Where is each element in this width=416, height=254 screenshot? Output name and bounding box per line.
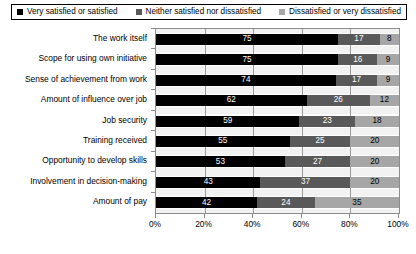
value-tick	[349, 214, 350, 218]
bar-segment[interactable]: 8	[380, 34, 399, 45]
category-label: The work itself	[93, 34, 147, 42]
stacked-bar[interactable]: 592318	[156, 116, 399, 127]
bar-value-label: 16	[353, 56, 362, 64]
bar-value-label: 20	[370, 137, 379, 145]
category-label: Opportunity to develop skills	[42, 156, 147, 164]
value-tick-label: 0%	[149, 220, 161, 228]
value-tick-label: 100%	[387, 220, 408, 228]
bar-value-label: 43	[204, 178, 213, 186]
bar-segment[interactable]: 42	[156, 197, 257, 208]
bar-segment[interactable]: 16	[338, 54, 377, 65]
bar-value-label: 75	[243, 56, 252, 64]
bar-value-label: 27	[313, 158, 322, 166]
stacked-bar[interactable]: 622612	[156, 95, 399, 106]
bar-segment[interactable]: 20	[350, 136, 399, 147]
bar-value-label: 55	[218, 137, 227, 145]
bar-segment[interactable]: 59	[156, 116, 299, 127]
bar-segment[interactable]: 17	[336, 75, 377, 86]
bar-segment[interactable]: 20	[350, 156, 399, 167]
bar-value-label: 74	[241, 76, 250, 84]
legend-item-very-satisfied-or-satisfied[interactable]: Very satisfied or satisfied	[17, 8, 118, 16]
stacked-bar[interactable]: 75178	[156, 34, 399, 45]
bar-segment[interactable]: 75	[156, 34, 338, 45]
bar-segment[interactable]: 37	[260, 177, 350, 188]
bar-value-label: 20	[370, 178, 379, 186]
stacked-bar[interactable]: 422435	[156, 197, 399, 208]
category-label: Amount of pay	[93, 197, 147, 205]
value-tick	[204, 214, 205, 218]
bar-segment[interactable]: 12	[370, 95, 399, 106]
category-axis-labels: The work itselfScope for using own initi…	[0, 28, 151, 214]
value-tick-label: 60%	[292, 220, 309, 228]
value-tick-label: 40%	[244, 220, 261, 228]
bar-segment[interactable]: 53	[156, 156, 285, 167]
legend-item-neither-satisfied-nor-dissatisfied[interactable]: Neither satisfied nor dissatisfied	[136, 8, 262, 16]
bar-value-label: 59	[223, 117, 232, 125]
legend-swatch-icon	[136, 9, 142, 15]
bar-segment[interactable]: 25	[290, 136, 351, 147]
bar-segment[interactable]: 23	[299, 116, 355, 127]
value-tick-label: 80%	[341, 220, 358, 228]
bar-value-label: 12	[380, 96, 389, 104]
stacked-bar[interactable]: 75169	[156, 54, 399, 65]
bar-value-label: 9	[386, 76, 391, 84]
bar-value-label: 18	[373, 117, 382, 125]
bar-segment[interactable]: 18	[355, 116, 399, 127]
bar-value-label: 25	[315, 137, 324, 145]
bar-segment[interactable]: 75	[156, 54, 338, 65]
stacked-bar[interactable]: 552520	[156, 136, 399, 147]
legend-swatch-icon	[279, 9, 285, 15]
bar-value-label: 24	[281, 199, 290, 207]
value-tick	[398, 214, 399, 218]
bar-value-label: 23	[323, 117, 332, 125]
stacked-bar[interactable]: 532720	[156, 156, 399, 167]
bar-segment[interactable]: 9	[377, 54, 399, 65]
value-tick	[252, 214, 253, 218]
bar-segment[interactable]: 26	[307, 95, 370, 106]
plot-area: 7517875169741796226125923185525205327204…	[155, 28, 400, 214]
stacked-bar[interactable]: 74179	[156, 75, 399, 86]
bar-value-label: 37	[301, 178, 310, 186]
bar-value-label: 17	[352, 76, 361, 84]
value-tick-label: 20%	[195, 220, 212, 228]
bar-segment[interactable]: 62	[156, 95, 307, 106]
bar-value-label: 20	[370, 158, 379, 166]
bar-segment[interactable]: 55	[156, 136, 290, 147]
bar-segment[interactable]: 35	[315, 197, 399, 208]
category-label: Training received	[83, 136, 147, 144]
chart-legend: Very satisfied or satisfied Neither sati…	[11, 4, 407, 20]
bar-value-label: 8	[387, 35, 392, 43]
bar-value-label: 17	[354, 35, 363, 43]
bar-value-label: 62	[227, 96, 236, 104]
legend-item-dissatisfied-or-very-dissatisfied[interactable]: Dissatisfied or very dissatisfied	[279, 8, 401, 16]
bar-segment[interactable]: 20	[350, 177, 399, 188]
legend-swatch-icon	[17, 9, 23, 15]
stacked-bar[interactable]: 433720	[156, 177, 399, 188]
bar-value-label: 9	[386, 56, 391, 64]
value-tick	[155, 214, 156, 218]
bar-value-label: 42	[202, 199, 211, 207]
category-label: Involvement in decision-making	[30, 177, 147, 185]
legend-item-label: Very satisfied or satisfied	[27, 8, 118, 16]
value-tick	[301, 214, 302, 218]
bar-segment[interactable]: 24	[257, 197, 315, 208]
bar-value-label: 26	[334, 96, 343, 104]
bar-segment[interactable]: 43	[156, 177, 260, 188]
bar-value-label: 53	[216, 158, 225, 166]
bar-segment[interactable]: 17	[338, 34, 379, 45]
value-axis-ticks	[155, 214, 400, 219]
category-label: Amount of influence over job	[41, 95, 147, 103]
bar-value-label: 35	[352, 199, 361, 207]
bars: 7517875169741796226125923185525205327204…	[156, 29, 399, 213]
category-label: Job security	[102, 116, 147, 124]
bar-segment[interactable]: 27	[285, 156, 351, 167]
legend-item-label: Dissatisfied or very dissatisfied	[289, 8, 401, 16]
legend-item-label: Neither satisfied nor dissatisfied	[146, 8, 262, 16]
bar-value-label: 75	[243, 35, 252, 43]
bar-segment[interactable]: 9	[377, 75, 399, 86]
stacked-bar-chart: Very satisfied or satisfied Neither sati…	[0, 0, 416, 254]
value-axis-labels: 0%20%40%60%80%100%	[0, 220, 416, 234]
category-label: Sense of achievement from work	[25, 75, 147, 83]
bar-segment[interactable]: 74	[156, 75, 336, 86]
category-label: Scope for using own initiative	[39, 54, 147, 62]
